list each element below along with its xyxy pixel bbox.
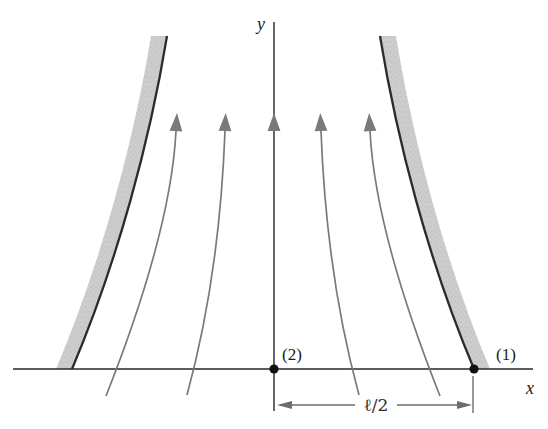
left-wall [56,36,167,369]
streamlines [106,113,440,396]
x-axis-label: x [525,378,534,398]
streamline-left-outer [106,131,176,396]
dimension-label: ℓ/2 [364,395,389,415]
point-2-dot [269,364,278,373]
streamline-left-inner [187,131,225,395]
left-wall-band [56,36,167,369]
point-1-dot [469,364,478,373]
diagram-canvas: ℓ/2 (2) (1) y x [0,0,548,429]
streamline-right-outer [370,131,440,396]
figure-container: ℓ/2 (2) (1) y x [0,0,548,429]
dimension-left-arrowhead [277,401,292,409]
streamline-left-inner-arrowhead [219,113,232,131]
y-axis-label: y [255,14,265,34]
dimension-annotation: ℓ/2 [277,376,473,415]
center-streamline-arrowhead [268,113,281,131]
point-1-label: (1) [496,345,516,364]
right-wall [380,36,490,369]
right-wall-band [380,36,490,369]
streamline-right-inner [321,131,359,395]
dimension-right-arrowhead [457,401,472,409]
streamline-right-inner-arrowhead [315,113,328,131]
streamline-right-outer-arrowhead [364,113,377,131]
point-2-label: (2) [282,345,302,364]
streamline-left-outer-arrowhead [170,113,183,131]
